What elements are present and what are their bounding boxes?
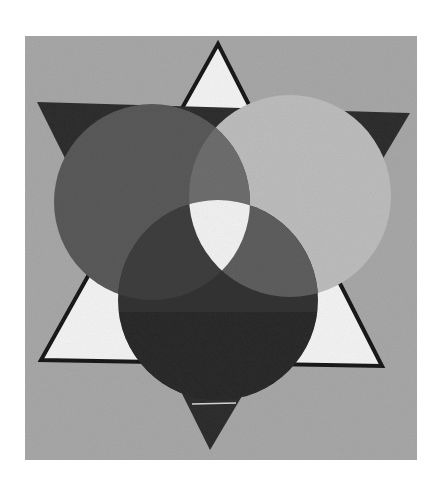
painting-photo: Painting of a six-pointed star with thre… xyxy=(0,0,441,491)
painting-svg xyxy=(0,0,441,491)
paint-stroke-line xyxy=(192,403,236,404)
